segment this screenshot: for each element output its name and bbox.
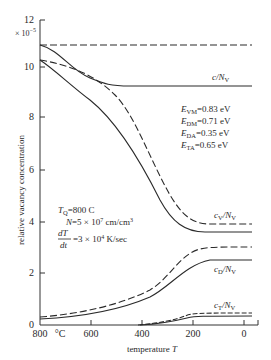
- y-tick-2: 2: [29, 267, 34, 278]
- energy-vm: EVM=0.83 eV: [180, 104, 231, 115]
- axes: [40, 20, 258, 325]
- curve-label-cv: cV/NV: [214, 210, 236, 221]
- energy-annotations: EVM=0.83 eV EDM=0.71 eV EDA=0.35 eV ETA=…: [180, 104, 231, 151]
- x-tick-800: 800: [33, 328, 48, 339]
- y-tick-6: 6: [29, 164, 34, 175]
- y-tick-12: 12: [24, 14, 34, 25]
- cooling-rate-denominator: dt: [60, 240, 68, 250]
- dislocation-density: N=5 × 107 cm/cm3: [65, 217, 133, 227]
- curve-ct-dashed: [138, 313, 252, 325]
- y-tick-10: 10: [24, 61, 34, 72]
- x-tick-200: 200: [186, 328, 201, 339]
- y-tick-4: 4: [29, 216, 34, 227]
- curves: [40, 45, 252, 325]
- curve-ct-solid: [140, 316, 252, 325]
- cooling-rate-numerator: dT: [58, 228, 69, 238]
- x-tick-400: 400: [135, 328, 150, 339]
- curve-label-cd: cD/NV: [214, 264, 236, 275]
- energy-ta: ETA=0.65 eV: [180, 140, 229, 151]
- cooling-rate-value: =3 × 104 K/sec: [73, 234, 127, 244]
- y-multiplier: × 10−5: [15, 27, 36, 38]
- x-tick-0: 0: [242, 328, 247, 339]
- x-tick-labels: 800 °C 600 400 200 0: [33, 328, 247, 339]
- curve-label-c: c/NV: [212, 72, 230, 83]
- x-tick-unit: °C: [55, 328, 66, 339]
- process-parameters: TQ=800 C N=5 × 107 cm/cm3 dT dt =3 × 104…: [58, 205, 133, 250]
- x-axis-label: temperature T: [127, 344, 178, 354]
- quench-temperature: TQ=800 C: [58, 205, 95, 216]
- y-axis-label: relative vacancy concentration: [16, 135, 26, 245]
- x-tick-600: 600: [84, 328, 99, 339]
- vacancy-concentration-chart: 12 10 8 6 4 2 0 × 10−5 relative vacancy …: [0, 0, 271, 360]
- y-tick-8: 8: [29, 111, 34, 122]
- energy-da: EDA=0.35 eV: [180, 128, 230, 139]
- energy-dm: EDM=0.71 eV: [180, 116, 231, 127]
- curve-label-ct: cT/NV: [214, 300, 236, 311]
